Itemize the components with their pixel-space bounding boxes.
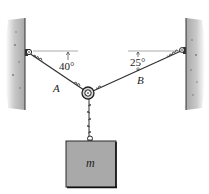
right-wall — [186, 18, 205, 110]
right-anchor-pin-icon — [180, 47, 186, 54]
left-angle-arrow-icon — [66, 52, 69, 60]
mass-label: m — [86, 157, 95, 169]
left-wall — [6, 18, 26, 110]
right-angle-label: 25° — [130, 57, 145, 68]
cable-b-label: B — [137, 75, 144, 86]
diagram-canvas — [0, 0, 209, 194]
left-anchor-pin-icon — [25, 49, 32, 56]
ring-icon — [82, 87, 94, 99]
cable-a-label: A — [53, 83, 60, 94]
left-angle-label: 40° — [59, 61, 74, 72]
vertical-chain — [87, 99, 91, 136]
